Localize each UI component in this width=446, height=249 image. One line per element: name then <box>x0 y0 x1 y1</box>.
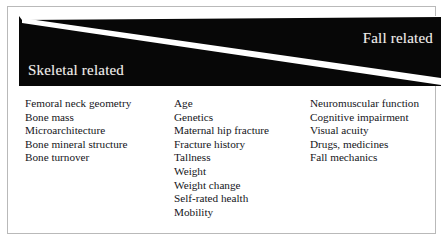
column-fall-factors: Neuromuscular function Cognitive impairm… <box>310 97 446 165</box>
list-item: Weight change <box>174 179 314 193</box>
list-item: Mobility <box>174 206 314 220</box>
list-item: Maternal hip fracture <box>174 124 314 138</box>
list-item: Femoral neck geometry <box>25 97 175 111</box>
list-item: Weight <box>174 165 314 179</box>
risk-factor-figure: Fall related Skeletal related Femoral ne… <box>0 0 446 249</box>
figure-frame: Fall related Skeletal related Femoral ne… <box>7 6 436 234</box>
list-item: Bone mass <box>25 111 175 125</box>
factor-list: Femoral neck geometry Bone mass Microarc… <box>25 97 175 165</box>
banner-label-skeletal-related: Skeletal related <box>28 61 124 79</box>
column-shared-factors: Age Genetics Maternal hip fracture Fract… <box>174 97 314 219</box>
list-item: Bone mineral structure <box>25 138 175 152</box>
list-item: Bone turnover <box>25 151 175 165</box>
list-item: Visual acuity <box>310 124 446 138</box>
list-item: Drugs, medicines <box>310 138 446 152</box>
list-item: Microarchitecture <box>25 124 175 138</box>
list-item: Neuromuscular function <box>310 97 446 111</box>
list-item: Fall mechanics <box>310 151 446 165</box>
factor-columns: Femoral neck geometry Bone mass Microarc… <box>19 97 441 237</box>
list-item: Fracture history <box>174 138 314 152</box>
factor-list: Neuromuscular function Cognitive impairm… <box>310 97 446 165</box>
banner-label-fall-related: Fall related <box>363 29 433 47</box>
factor-list: Age Genetics Maternal hip fracture Fract… <box>174 97 314 219</box>
list-item: Self-rated health <box>174 192 314 206</box>
list-item: Age <box>174 97 314 111</box>
column-skeletal-factors: Femoral neck geometry Bone mass Microarc… <box>25 97 175 165</box>
list-item: Tallness <box>174 151 314 165</box>
category-banner: Fall related Skeletal related <box>19 16 441 86</box>
list-item: Genetics <box>174 111 314 125</box>
list-item: Cognitive impairment <box>310 111 446 125</box>
